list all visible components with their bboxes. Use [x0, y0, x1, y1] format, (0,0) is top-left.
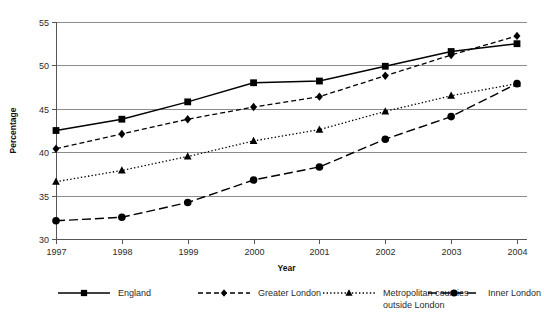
legend-item-greater-london[interactable]: Greater London	[198, 288, 321, 298]
marker-triangle	[345, 289, 352, 296]
marker-circle	[118, 214, 126, 222]
marker-diamond	[53, 145, 60, 153]
marker-square	[184, 98, 191, 105]
chart-legend: EnglandGreater LondonMetropolitan counti…	[58, 288, 541, 310]
marker-circle	[250, 176, 258, 184]
marker-diamond	[514, 32, 521, 40]
y-axis-tick-label: 45	[39, 105, 49, 115]
marker-square	[514, 40, 521, 47]
y-axis-tick-label: 40	[39, 148, 49, 158]
x-axis-tick-label: 1997	[46, 247, 66, 257]
marker-triangle	[250, 137, 258, 144]
legend-item-metropolitan-counties-outside-london[interactable]: Metropolitan countiesoutside London	[323, 288, 469, 310]
chart-container: 3035404550551997199819992000200120022003…	[0, 0, 544, 315]
marker-diamond	[316, 92, 323, 100]
marker-circle	[184, 199, 192, 207]
x-axis-tick-label: 2003	[441, 247, 461, 257]
x-axis-tick-label: 2001	[309, 247, 329, 257]
y-axis-tick-label: 30	[39, 235, 49, 245]
marker-diamond	[184, 115, 191, 123]
marker-square	[118, 116, 125, 123]
line-chart: 3035404550551997199819992000200120022003…	[0, 0, 544, 315]
marker-square	[382, 63, 389, 70]
x-axis-tick-label: 1998	[112, 247, 132, 257]
marker-circle	[316, 163, 324, 171]
legend-label: Greater London	[258, 288, 321, 298]
marker-square	[81, 290, 87, 296]
x-axis-ticks: 19971998199920002001200220032004	[46, 239, 527, 257]
y-axis-tick-label: 55	[39, 18, 49, 28]
legend-label-line2: outside London	[383, 300, 445, 310]
marker-diamond	[382, 72, 389, 80]
marker-diamond	[221, 289, 227, 297]
marker-circle	[52, 217, 60, 225]
x-axis-tick-label: 1999	[178, 247, 198, 257]
legend-label: Inner London	[488, 288, 541, 298]
legend-item-england[interactable]: England	[58, 288, 151, 298]
marker-square	[53, 127, 60, 134]
y-axis-title: Percentage	[8, 107, 18, 153]
x-axis-tick-label: 2004	[507, 247, 527, 257]
x-axis-title: Year	[278, 263, 297, 273]
y-axis-tick-label: 35	[39, 192, 49, 202]
marker-diamond	[118, 130, 125, 138]
legend-label: England	[118, 288, 151, 298]
marker-circle	[451, 290, 458, 297]
marker-circle	[447, 113, 455, 121]
marker-circle	[381, 135, 389, 143]
y-axis-tick-label: 50	[39, 61, 49, 71]
x-axis-tick-label: 2002	[375, 247, 395, 257]
marker-triangle	[52, 178, 60, 185]
marker-circle	[513, 80, 521, 88]
marker-diamond	[250, 103, 257, 111]
marker-square	[316, 78, 323, 85]
x-axis-tick-label: 2000	[244, 247, 264, 257]
marker-square	[250, 79, 257, 86]
